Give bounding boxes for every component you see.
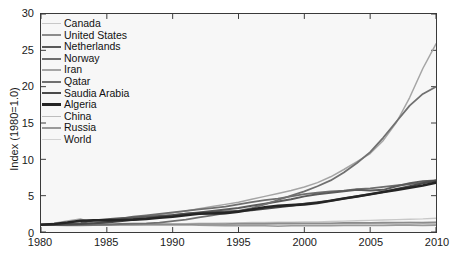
legend-label: Algeria — [64, 99, 97, 111]
legend-swatch-icon — [42, 116, 61, 117]
legend-item: Norway — [42, 53, 129, 65]
legend-item: Qatar — [42, 76, 129, 88]
legend-item: Canada — [42, 18, 129, 30]
legend-swatch-icon — [42, 69, 61, 71]
x-tick-label-0: 1980 — [28, 236, 52, 248]
legend-swatch-icon — [42, 103, 61, 106]
y-tick-label-2: 10 — [0, 154, 34, 166]
x-tick-label-3: 1995 — [226, 236, 250, 248]
series-line — [41, 181, 436, 225]
y-tick-label-3: 15 — [0, 117, 34, 129]
legend-swatch-icon — [42, 46, 61, 48]
legend-label: Qatar — [64, 76, 90, 88]
x-tick-label-5: 2005 — [359, 236, 383, 248]
legend-swatch-icon — [42, 23, 61, 24]
legend-label: World — [64, 134, 91, 146]
x-tick-label-4: 2000 — [292, 236, 316, 248]
y-tick-label-1: 5 — [0, 190, 34, 202]
legend-item: World — [42, 134, 129, 146]
chart-figure: Index (1980=1.0) 051015202530 1980198519… — [0, 0, 465, 263]
x-tick-label-2: 1990 — [160, 236, 184, 248]
legend-swatch-icon — [42, 127, 61, 129]
chart-legend: CanadaUnited StatesNetherlandsNorwayIran… — [42, 18, 129, 146]
y-tick-label-6: 30 — [0, 7, 34, 19]
legend-swatch-icon — [42, 92, 61, 94]
legend-swatch-icon — [42, 139, 61, 140]
x-tick-label-1: 1985 — [94, 236, 118, 248]
legend-label: Canada — [64, 18, 101, 30]
y-tick-label-5: 25 — [0, 44, 34, 56]
y-tick-label-4: 20 — [0, 80, 34, 92]
legend-swatch-icon — [42, 81, 61, 83]
legend-swatch-icon — [42, 34, 61, 36]
legend-item: Algeria — [42, 99, 129, 111]
x-tick-label-6: 2010 — [425, 236, 449, 248]
legend-swatch-icon — [42, 58, 61, 60]
